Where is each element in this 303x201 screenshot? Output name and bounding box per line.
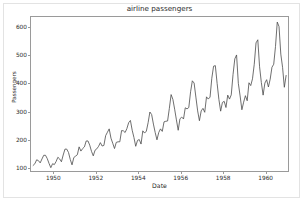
y-tick-mark: [28, 140, 30, 141]
x-tick-mark: [223, 172, 224, 174]
chart-title: airline passengers: [30, 4, 289, 14]
y-tick-mark: [28, 112, 30, 113]
y-tick-label: 600: [5, 24, 27, 30]
x-tick-mark: [181, 172, 182, 174]
x-tick-label: 1956: [161, 175, 201, 182]
x-tick-mark: [138, 172, 139, 174]
y-tick-mark: [28, 83, 30, 84]
plot-area: [30, 16, 289, 172]
x-tick-label: 1950: [33, 175, 73, 182]
y-tick-label: 100: [5, 165, 27, 171]
y-axis-label: Passengers: [11, 57, 17, 117]
x-tick-label: 1952: [76, 175, 116, 182]
y-tick-mark: [28, 168, 30, 169]
x-tick-label: 1958: [203, 175, 243, 182]
x-tick-mark: [96, 172, 97, 174]
y-tick-mark: [28, 27, 30, 28]
x-tick-label: 1954: [118, 175, 158, 182]
chart-figure: airline passengers 100200300400500600 Pa…: [0, 0, 303, 201]
x-tick-mark: [53, 172, 54, 174]
data-series-line: [31, 17, 290, 173]
y-tick-label: 200: [5, 137, 27, 143]
x-axis-label: Date: [30, 182, 289, 189]
x-tick-label: 1960: [246, 175, 286, 182]
x-tick-mark: [266, 172, 267, 174]
y-tick-mark: [28, 55, 30, 56]
